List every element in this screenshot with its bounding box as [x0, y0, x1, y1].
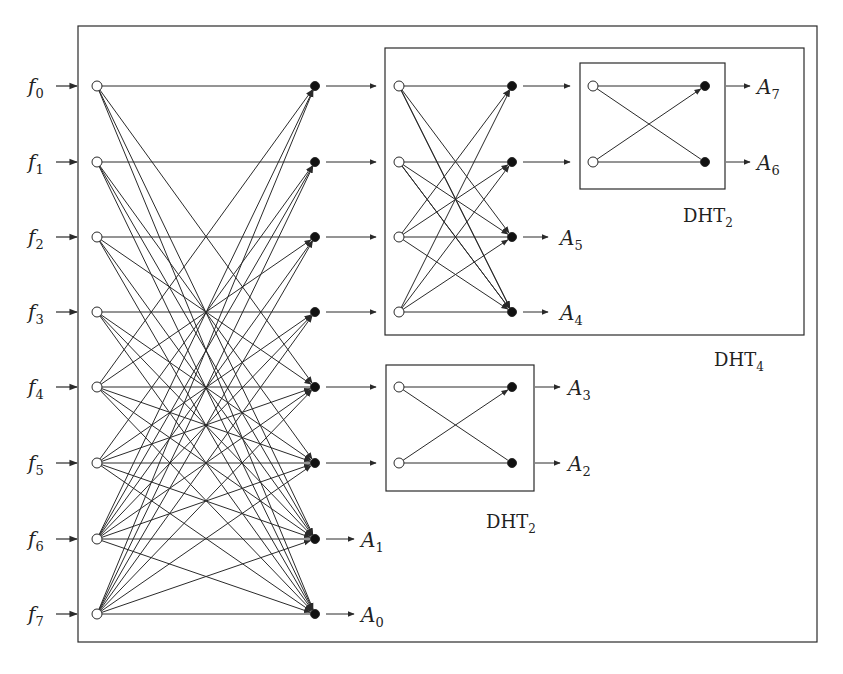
input-label-f7: f7	[26, 602, 44, 629]
stage1-output-node-4	[311, 383, 320, 392]
output-label-A3: A3	[566, 376, 591, 403]
input-label-f2: f2	[26, 225, 44, 252]
stage1-output-node-6	[311, 535, 320, 544]
stage1-butterfly-edges	[97, 86, 313, 614]
dht4-input-node-0	[394, 81, 404, 91]
input-node-6	[92, 534, 102, 544]
dht4-label: DHT4	[714, 349, 764, 374]
dht2-top-output-node-0	[701, 82, 710, 91]
input-node-3	[92, 307, 102, 317]
input-label-f3: f3	[26, 300, 44, 327]
dht2-bottom-input-node-5	[394, 458, 404, 468]
stage1-output-node-1	[311, 158, 320, 167]
input-node-7	[92, 609, 102, 619]
output-label-A4: A4	[558, 301, 583, 328]
dht4-input-node-2	[394, 232, 404, 242]
input-node-1	[92, 157, 102, 167]
dht2-top-input-node-0	[588, 81, 598, 91]
input-label-f6: f6	[26, 527, 44, 554]
input-node-2	[92, 232, 102, 242]
dht2-top-edges	[593, 86, 701, 162]
output-label-A6: A6	[755, 151, 780, 178]
output-label-A5: A5	[558, 226, 583, 253]
inner-nodes	[394, 81, 710, 468]
stage1-output-node-3	[311, 308, 320, 317]
input-node-5	[92, 458, 102, 468]
dht4-input-node-3	[394, 307, 404, 317]
dht4-output-node-3	[508, 308, 517, 317]
input-node-4	[92, 382, 102, 392]
dht2-bottom-label: DHT2	[486, 511, 536, 536]
dht4-input-node-1	[394, 157, 404, 167]
dht4-output-node-0	[508, 82, 517, 91]
dht2-top-input-node-1	[588, 157, 598, 167]
dht2-bottom-output-node-4	[508, 383, 517, 392]
stage1-output-node-2	[311, 233, 320, 242]
input-label-f5: f5	[26, 451, 44, 478]
dht-flow-graph: f0f1f2f3f4f5f6f7 A7 A6 A5 A4 A3 A2 A1 A0…	[0, 0, 843, 674]
stage1-output-node-0	[311, 82, 320, 91]
input-label-f1: f1	[26, 150, 44, 177]
input-labels: f0f1f2f3f4f5f6f7	[26, 74, 77, 629]
stage1-output-node-7	[311, 610, 320, 619]
dht2-bottom-output-node-5	[508, 459, 517, 468]
outer-frame	[78, 26, 817, 642]
output-label-A1: A1	[359, 528, 384, 555]
dht4-output-node-1	[508, 158, 517, 167]
output-label-A0: A0	[359, 603, 384, 630]
stage-connectors	[326, 86, 750, 614]
output-label-A7: A7	[755, 75, 780, 102]
dht2-bottom-input-node-4	[394, 382, 404, 392]
output-label-A2: A2	[566, 452, 591, 479]
dht4-output-node-2	[508, 233, 517, 242]
input-label-f0: f0	[26, 74, 44, 101]
stage1-output-node-5	[311, 459, 320, 468]
dht2-top-output-node-1	[701, 158, 710, 167]
dht4-edges	[399, 86, 510, 312]
input-node-0	[92, 81, 102, 91]
input-label-f4: f4	[26, 375, 44, 402]
dht2-top-label: DHT2	[683, 205, 733, 230]
dht2-bottom-edges	[399, 387, 508, 463]
